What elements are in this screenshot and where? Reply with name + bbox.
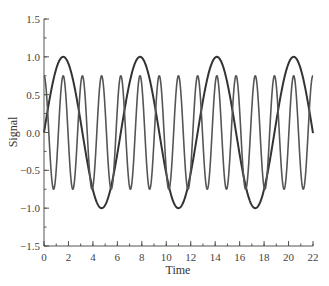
x-tick-label: 10 [161, 251, 173, 263]
y-tick-label: −0.5 [20, 164, 40, 176]
x-tick-label: 18 [259, 251, 271, 263]
y-axis-title: Signal [6, 116, 20, 147]
x-tick-label: 0 [41, 251, 47, 263]
x-tick-label: 6 [115, 251, 121, 263]
y-tick-label: 0.5 [26, 89, 40, 101]
y-axis: −1.5−1.0−0.50.00.51.01.5 [20, 13, 49, 252]
x-axis-title: Time [166, 263, 191, 277]
x-tick-label: 12 [185, 251, 196, 263]
y-tick-label: 0.0 [26, 127, 40, 139]
y-tick-label: −1.0 [20, 202, 40, 214]
x-tick-label: 2 [66, 251, 72, 263]
x-tick-label: 4 [90, 251, 96, 263]
line-chart: −1.5−1.0−0.50.00.51.01.5 024681012141618… [0, 0, 329, 286]
x-tick-label: 8 [139, 251, 145, 263]
series-line-2 [44, 76, 313, 190]
x-tick-label: 22 [308, 251, 319, 263]
x-tick-label: 14 [210, 251, 222, 263]
y-tick-label: −1.5 [20, 240, 40, 252]
y-tick-label: 1.5 [26, 13, 40, 25]
x-tick-label: 20 [283, 251, 295, 263]
plot-series [44, 57, 313, 208]
x-axis: 0246810121416182022 [41, 241, 318, 263]
x-tick-label: 16 [234, 251, 246, 263]
y-tick-label: 1.0 [26, 51, 40, 63]
